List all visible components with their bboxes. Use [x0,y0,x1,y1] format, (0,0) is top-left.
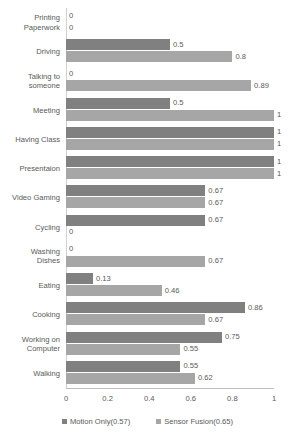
bar-track: 0.5 [66,39,274,50]
bar-value-label: 0.46 [162,287,180,295]
category-label: Having Class [0,135,60,144]
x-axis-tick-label: 0.6 [186,394,197,403]
bar [66,156,274,167]
bar-value-label: 0.13 [93,275,111,283]
bar-value-label: 0.67 [205,258,223,266]
bar-track: 0.67 [66,197,274,208]
bar [66,344,180,355]
bar [66,314,205,325]
bar-track: 0.67 [66,215,274,226]
category-label: Working on Computer [0,335,60,353]
bar-track: 0.46 [66,285,274,296]
bar-group: 0.550.62 [66,359,274,388]
bar-value-label: 0 [66,246,73,254]
bar [66,302,245,313]
bar-group: 00 [66,8,274,37]
bar-group: 0.670.67 [66,183,274,212]
category-label: Talking to someone [0,72,60,90]
bar-value-label: 0.62 [195,374,213,382]
bar-group: 0.750.55 [66,330,274,359]
category-label: Walking [0,369,60,378]
bar-track: 0.8 [66,51,274,62]
bar-value-label: 0.86 [245,304,263,312]
bar-track: 0.75 [66,332,274,343]
legend-item[interactable]: Motion Only(0.57) [62,418,130,426]
category-label: Cooking [0,310,60,319]
bar-track: 0 [66,227,274,238]
bar-track: 1 [66,139,274,150]
bar-value-label: 1 [274,141,281,149]
bar-value-label: 1 [274,158,281,166]
bar-group: 0.130.46 [66,271,274,300]
bar-track: 1 [66,168,274,179]
legend-swatch-icon [62,419,67,424]
bar-group: 00.67 [66,242,274,271]
bar [66,185,205,196]
bar-group: 0.670 [66,213,274,242]
chart-legend: Motion Only(0.57)Sensor Fusion(0.65) [0,418,295,426]
bar [66,127,274,138]
bar-chart: Printing PaperworkDrivingTalking to some… [0,0,295,442]
bar [66,110,274,121]
category-label: Printing Paperwork [0,13,60,31]
bar [66,139,274,150]
bar-value-label: 0.55 [180,362,198,370]
bar [66,332,222,343]
x-axis-line [66,388,274,389]
bar-group: 11 [66,125,274,154]
bar [66,273,93,284]
bar [66,215,205,226]
bar-value-label: 0.5 [170,99,184,107]
bar-value-label: 1 [274,129,281,137]
category-label: Washing Dishes [0,247,60,265]
bar-value-label: 0 [66,24,73,32]
x-axis-tick-label: 0 [64,394,68,403]
bar-group: 0.50.8 [66,37,274,66]
bar-value-label: 0.67 [205,316,223,324]
bar-track: 0.89 [66,80,274,91]
bar-track: 0.5 [66,98,274,109]
category-label: Driving [0,47,60,56]
bar-track: 0.55 [66,344,274,355]
bar-track: 0 [66,22,274,33]
bar-value-label: 0.5 [170,41,184,49]
bar [66,51,232,62]
bar-track: 0.67 [66,314,274,325]
bar-group: 0.860.67 [66,300,274,329]
bar-track: 0 [66,68,274,79]
category-label: Video Gaming [0,193,60,202]
bar-value-label: 0 [66,228,73,236]
bar [66,256,205,267]
bar-track: 0 [66,10,274,21]
x-axis-tick-label: 1 [272,394,276,403]
bar-track: 0.55 [66,361,274,372]
legend-label: Sensor Fusion(0.65) [164,418,233,426]
bar [66,373,195,384]
bar [66,98,170,109]
legend-label: Motion Only(0.57) [70,418,130,426]
bar-group: 00.89 [66,66,274,95]
bar-value-label: 0.55 [180,345,198,353]
bar [66,197,205,208]
bar-value-label: 0 [66,70,73,78]
legend-item[interactable]: Sensor Fusion(0.65) [156,418,233,426]
x-axis-tick-label: 0.4 [144,394,155,403]
bar-value-label: 0.67 [205,199,223,207]
category-label: Presentaion [0,164,60,173]
bar [66,80,251,91]
bar-value-label: 1 [274,170,281,178]
bar-track: 0.62 [66,373,274,384]
category-label: Eating [0,281,60,290]
x-axis-tick-label: 0.8 [227,394,238,403]
bar-value-label: 0.67 [205,187,223,195]
legend-swatch-icon [156,419,161,424]
category-label: Cycling [0,223,60,232]
category-label: Meeting [0,106,60,115]
bar-track: 1 [66,110,274,121]
bar-track: 0 [66,244,274,255]
bar [66,285,162,296]
bar-group: 11 [66,154,274,183]
bar-track: 0.67 [66,185,274,196]
bar-group: 0.51 [66,96,274,125]
bar-track: 1 [66,156,274,167]
